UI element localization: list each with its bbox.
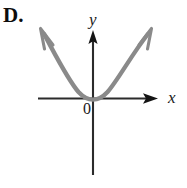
y-axis-label: y	[87, 10, 97, 29]
parabola-graph: y x 0	[0, 0, 187, 188]
parabola-curve	[44, 34, 148, 100]
origin-label: 0	[83, 100, 91, 117]
figure-root: D. y x 0	[0, 0, 187, 188]
x-axis-label: x	[167, 88, 176, 107]
